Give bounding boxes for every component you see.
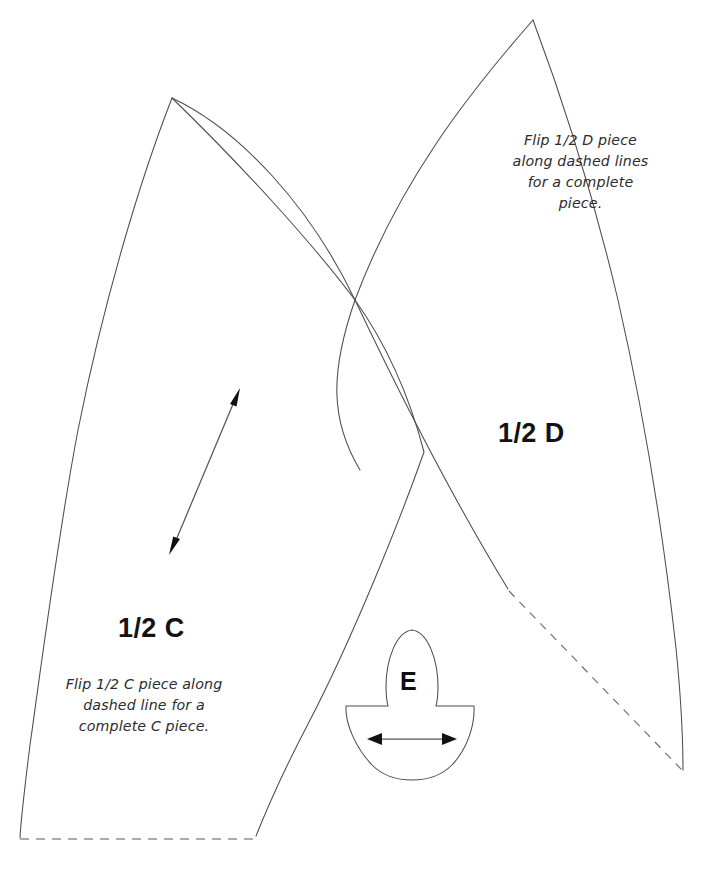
- half-d-fold-line: [509, 591, 682, 770]
- half-d-left-edge: [337, 20, 533, 470]
- half-d-left-edge-lower: [172, 98, 508, 589]
- piece-e-outline: [346, 630, 474, 780]
- pattern-sheet: 1/2 D 1/2 C E Flip 1/2 D piece along das…: [0, 0, 715, 870]
- instruction-note-half-d: Flip 1/2 D piece along dashed lines for …: [489, 130, 672, 214]
- half-c-grain-arrow: [169, 388, 240, 555]
- piece-label-e: E: [400, 667, 417, 696]
- piece-label-half-d: 1/2 D: [498, 418, 565, 449]
- piece-label-half-c: 1/2 C: [118, 613, 185, 644]
- instruction-note-half-c: Flip 1/2 C piece along dashed line for a…: [45, 674, 243, 737]
- piece-e-grain-arrow: [367, 733, 457, 745]
- piece-e: [346, 630, 474, 780]
